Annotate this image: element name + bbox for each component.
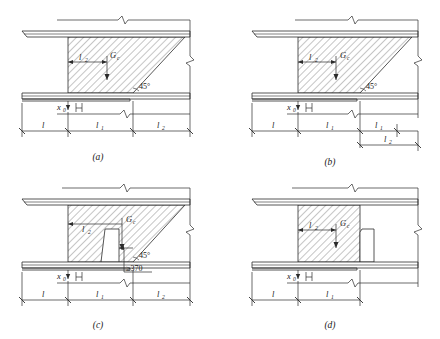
panel-a-caption: (a) bbox=[92, 152, 103, 163]
panel-b-x0-sub: 0 bbox=[293, 107, 296, 113]
panel-c-caption: (c) bbox=[93, 320, 104, 331]
panel-c-dim-l1-sub: 1 bbox=[101, 294, 104, 300]
panel-d-dim-l1-sub: 1 bbox=[331, 294, 334, 300]
panel-d-load-label: G bbox=[340, 218, 346, 228]
panel-a-load-label: G bbox=[110, 50, 116, 60]
panel-d-top-flange bbox=[252, 199, 418, 205]
panel-a-x0-sub: 0 bbox=[63, 107, 66, 113]
panel-b-dim-l1b-sub: 1 bbox=[380, 125, 383, 131]
panel-c-min-note: ≥370 bbox=[126, 264, 142, 273]
panel-c-top-flange bbox=[22, 199, 190, 205]
panel-a-angle-label: 45° bbox=[139, 82, 150, 91]
panel-d-l2-sub: 2 bbox=[315, 225, 318, 231]
panel-d-x0-sub: 0 bbox=[293, 276, 296, 282]
panel-d-notch bbox=[360, 229, 374, 262]
panel-b-dim-row2-l2-sub: 2 bbox=[389, 139, 392, 145]
panel-d-hatched-web bbox=[298, 205, 360, 262]
panel-b-top-flange bbox=[252, 31, 418, 37]
panel-a-dim-l2-sub: 2 bbox=[162, 125, 165, 131]
panel-c-x0-sub: 0 bbox=[63, 276, 66, 282]
panel-c-load-label: G bbox=[126, 214, 132, 224]
panel-c-angle-label: 45° bbox=[139, 251, 150, 260]
panel-a-l2-sub: 2 bbox=[85, 57, 88, 63]
panel-c-x0-label: x bbox=[56, 271, 61, 281]
panel-d-caption: (d) bbox=[324, 320, 335, 331]
panel-a-dim-l1-sub: 1 bbox=[101, 125, 104, 131]
panel-c-l2-sub: 2 bbox=[88, 229, 91, 235]
panel-b-x0-label: x bbox=[286, 102, 291, 112]
panel-a-x0-label: x bbox=[56, 102, 61, 112]
panel-b-load-label: G bbox=[340, 50, 346, 60]
panel-b-l2-sub: 2 bbox=[315, 57, 318, 63]
engineering-figure: l 2 G c 45° x 0 bbox=[0, 0, 440, 339]
panel-a-top-flange bbox=[22, 31, 190, 37]
panel-b-angle-label: 45° bbox=[366, 82, 377, 91]
panel-b-dim-l1-sub: 1 bbox=[331, 125, 334, 131]
panel-b-caption: (b) bbox=[324, 157, 335, 168]
panel-c-dim-l2-sub: 2 bbox=[162, 294, 165, 300]
panel-d-x0-label: x bbox=[286, 271, 291, 281]
